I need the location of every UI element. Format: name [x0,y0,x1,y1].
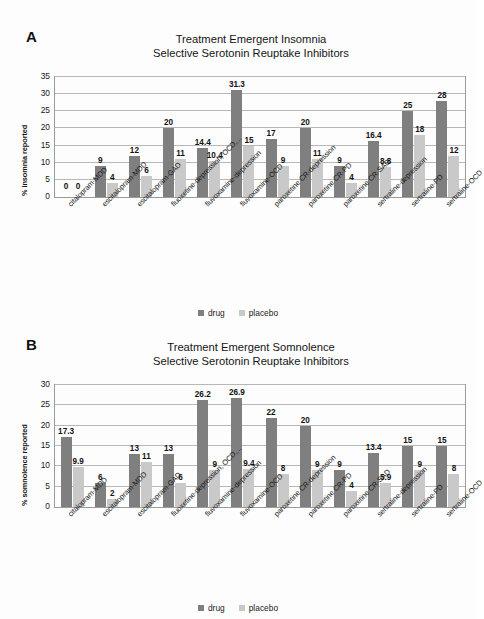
legend-label-placebo: placebo [249,308,278,318]
bar-value-label: 8 [281,464,286,473]
legend-label-placebo: placebo [249,603,278,613]
bar-drug: 17.3 [61,437,72,507]
bar-value-label: 26.2 [195,390,211,399]
panel-b: B Treatment Emergent Somnolence Selectiv… [0,332,476,619]
legend-label-drug: drug [208,308,225,318]
x-axis-tick: fluvoxamine-OCD [226,200,260,296]
bar-value-label: 9 [281,156,286,165]
bar-value-label: 20 [301,416,310,425]
panel-b-x-axis-labels: citalopram-MDDescitalopram-MDDescitalopr… [54,510,466,606]
x-axis-tick: citalopram-MDD [54,510,88,606]
x-axis-tick: paroxetine CR-PD [294,200,328,296]
bar-value-label: 15 [437,436,446,445]
y-axis-tick-label: 15 [41,441,50,449]
x-axis-tick: fluoxetine-depression, OCD,... [157,510,191,606]
panel-b-letter: B [26,336,37,353]
y-axis-tick-label: 30 [41,89,50,97]
x-axis-tick: sertraline-OCD [432,200,466,296]
bar-value-label: 9 [337,460,342,469]
bar-value-label: 26.9 [229,388,245,397]
panel-a-title-line2: Selective Serotonin Reuptake Inhibitors [56,46,446,60]
bar-value-label: 13 [130,444,139,453]
bar-value-label: 8 [452,464,457,473]
bar-value-label: 4 [349,481,354,490]
y-axis-tick-label: 10 [41,158,50,166]
bar-value-label: 12 [130,146,139,155]
x-axis-tick: sertraline-PD [397,200,431,296]
y-axis-tick-label: 10 [41,461,50,469]
x-axis-tick: paroxetine CR-PD [294,510,328,606]
y-axis-tick-label: 5 [45,482,50,490]
legend-item-drug: drug [198,308,225,318]
bar-value-label: 17.3 [58,427,74,436]
legend-swatch-drug-icon [198,310,204,316]
legend-item-placebo: placebo [239,308,278,318]
bar-value-label: 16.4 [366,131,382,140]
x-axis-tick: paroxetine CR-SAD [329,510,363,606]
bar-group: 00 [55,77,89,197]
bar-group: 17.39.9 [55,385,89,507]
x-axis-tick: sertraline-depression [363,200,397,296]
bar-value-label: 11 [142,452,151,461]
bar-value-label: 0 [64,182,69,191]
y-axis-tick-label: 20 [41,123,50,131]
bar-value-label: 20 [164,118,173,127]
x-axis-tick: sertraline-PD [397,510,431,606]
panel-b-title-line1: Treatment Emergent Somnolence [167,341,334,353]
panel-b-title-line2: Selective Serotonin Reuptake Inhibitors [56,354,446,368]
y-axis-tick-label: 0 [45,502,50,510]
bar-value-label: 9 [98,156,103,165]
x-axis-tick: fluvoxamine-depression [191,510,225,606]
x-axis-tick: escitalopram-MDD [88,510,122,606]
panel-a-title: Treatment Emergent Insomnia Selective Se… [56,32,446,60]
y-axis-tick-label: 15 [41,141,50,149]
bar-value-label: 28 [437,91,446,100]
bar-value-label: 18 [415,125,424,134]
bar-value-label: 9.9 [72,457,83,466]
panel-b-y-axis-label: % somnolence reported [20,424,29,506]
x-axis-tick: escitalopram-GAD [123,510,157,606]
legend-item-placebo: placebo [239,603,278,613]
legend-item-drug: drug [198,603,225,613]
y-axis-tick-label: 0 [45,192,50,200]
panel-b-legend: drug placebo [0,603,476,613]
bar-value-label: 22 [267,408,276,417]
bar-value-label: 4 [349,173,354,182]
panel-a-y-axis-label: % insomnia reported [20,125,29,196]
bar-value-label: 4 [110,173,115,182]
bar-value-label: 17 [267,129,276,138]
bar-value-label: 9 [337,156,342,165]
y-axis-tick-label: 35 [41,72,50,80]
bar-value-label: 31.3 [229,80,245,89]
bar-value-label: 11 [176,149,185,158]
y-axis-tick-label: 5 [45,175,50,183]
legend-label-drug: drug [208,603,225,613]
bar-value-label: 25 [403,101,412,110]
legend-swatch-drug-icon [198,605,204,611]
x-axis-tick: paroxetine CR-depression [260,200,294,296]
x-axis-tick: sertraline-depression [363,510,397,606]
bar-value-label: 13 [164,444,173,453]
panel-a: A Treatment Emergent Insomnia Selective … [0,0,476,332]
bar-value-label: 13.4 [366,443,382,452]
x-axis-tick: fluvoxamine-OCD [226,510,260,606]
x-axis-tick: citalopram-MDD [54,200,88,296]
panel-a-legend: drug placebo [0,308,476,318]
bar-drug: 20 [300,128,311,197]
bar-value-label: 20 [301,118,310,127]
bar-value-label: 14.4 [195,138,211,147]
panel-a-letter: A [26,28,37,45]
x-axis-tick: paroxetine CR-depression [260,510,294,606]
x-axis-tick: paroxetine CR-SAD [329,200,363,296]
panel-a-title-line1: Treatment Emergent Insomnia [176,33,327,45]
y-axis-tick-label: 30 [41,380,50,388]
x-axis-tick: escitalopram-MDD [88,200,122,296]
y-axis-tick-label: 25 [41,106,50,114]
x-axis-tick: escitalopram-GAD [123,200,157,296]
bar-value-label: 12 [449,146,458,155]
panel-b-title: Treatment Emergent Somnolence Selective … [56,340,446,368]
x-axis-tick: fluoxetine-depression, OCD,... [157,200,191,296]
x-axis-tick: fluvoxamine-depression [191,200,225,296]
panel-a-x-axis-labels: citalopram-MDDescitalopram-MDDescitalopr… [54,200,466,296]
